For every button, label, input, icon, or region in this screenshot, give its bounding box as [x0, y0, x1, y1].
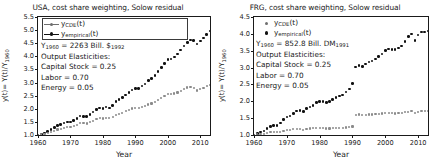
data-point — [154, 101, 156, 103]
data-point — [180, 90, 182, 92]
data-point — [92, 120, 94, 122]
x-axis-label-frg: Year — [253, 150, 429, 159]
data-point — [183, 45, 186, 48]
data-point — [154, 74, 157, 77]
data-point — [423, 31, 426, 34]
data-point — [424, 110, 426, 112]
data-point — [266, 132, 268, 134]
data-point — [299, 109, 302, 112]
data-point — [138, 107, 140, 109]
data-point — [354, 66, 357, 69]
data-point — [105, 117, 107, 119]
data-point — [170, 93, 172, 95]
annotation-base-year-frg: Y1960 = 852.8 Bill. DM1991 — [256, 39, 349, 50]
data-point — [282, 130, 284, 132]
data-point — [192, 39, 195, 42]
data-point — [79, 122, 81, 124]
y-axis-tick-mark — [251, 51, 254, 52]
chart-title-frg: FRG, cost share weighting, Solow residua… — [217, 3, 433, 12]
data-point — [202, 87, 204, 89]
x-axis-tick-mark — [135, 135, 136, 138]
y-axis-tick-label: 4.0 — [225, 30, 250, 38]
data-point — [111, 104, 114, 107]
data-point — [179, 49, 182, 52]
annotation-labor-usa: Labor = 0.70 — [41, 73, 124, 84]
data-point — [134, 87, 137, 90]
data-point — [115, 100, 118, 103]
data-point — [289, 115, 292, 118]
data-point — [427, 110, 429, 112]
data-point — [176, 53, 179, 56]
data-point — [322, 100, 325, 103]
data-point — [69, 126, 71, 128]
legend-marker-cde-icon — [44, 21, 59, 28]
data-point — [53, 126, 56, 129]
data-point — [361, 65, 364, 68]
y-axis-tick-label: 1.0 — [225, 131, 250, 139]
data-point — [384, 112, 386, 114]
data-point — [150, 102, 152, 104]
data-point — [279, 131, 281, 133]
data-point — [315, 101, 318, 104]
x-axis-label-usa: Year — [37, 150, 211, 159]
data-point — [341, 94, 344, 97]
data-point — [338, 95, 341, 98]
plot-area-frg: yCDE(t) yempirical(t) Y1960 = 852.8 Bill… — [253, 16, 429, 136]
data-point — [335, 127, 337, 129]
y-axis-tick-mark — [35, 96, 38, 97]
data-point — [302, 110, 305, 113]
data-point — [99, 117, 101, 119]
x-axis-tick-mark — [287, 135, 288, 138]
data-point — [325, 101, 328, 104]
data-point — [345, 126, 347, 128]
data-point — [384, 49, 387, 52]
panel-usa: USA, cost share weighting, Solow residua… — [0, 0, 216, 167]
y-axis-tick-label: 3.0 — [9, 79, 34, 87]
data-point — [318, 100, 321, 103]
y-axis-tick-label: 2.0 — [9, 105, 34, 113]
y-axis-tick-label: 3.0 — [225, 64, 250, 72]
data-point — [173, 92, 175, 94]
data-point — [186, 86, 188, 88]
data-point — [292, 112, 295, 115]
data-point — [371, 113, 373, 115]
x-axis-tick-mark — [103, 135, 104, 138]
data-point — [92, 111, 95, 114]
annotation-labor-frg: Labor = 0.70 — [256, 71, 349, 82]
data-point — [189, 39, 192, 42]
y-axis-tick-mark — [35, 83, 38, 84]
data-point — [410, 33, 413, 36]
x-axis-tick-label: 1990 — [344, 139, 361, 147]
annotation-capital-frg: Capital Stock = 0.25 — [256, 60, 349, 71]
data-point — [196, 89, 198, 91]
data-point — [342, 127, 344, 129]
data-point — [296, 128, 298, 130]
data-point — [137, 87, 140, 90]
data-point — [388, 112, 390, 114]
x-axis-tick-label: 1980 — [311, 139, 328, 147]
legend-marker-empirical-icon — [262, 30, 272, 37]
data-point — [351, 82, 354, 85]
data-point — [325, 127, 327, 129]
data-point — [361, 114, 363, 116]
data-point — [157, 70, 160, 73]
legend-frg: yCDE(t) yempirical(t) — [262, 19, 311, 38]
data-point — [335, 96, 338, 99]
data-point — [95, 108, 98, 111]
annotation-elasticities-header-usa: Output Elasticities: — [41, 52, 124, 63]
annotation-block-frg: Y1960 = 852.8 Bill. DM1991 Output Elasti… — [256, 39, 349, 92]
data-point — [309, 127, 311, 129]
data-point — [53, 130, 55, 132]
data-point — [82, 115, 85, 118]
x-axis-tick-label: 1960 — [246, 139, 263, 147]
x-axis-tick-mark — [70, 135, 71, 138]
y-axis-tick-label: 4.0 — [9, 52, 34, 60]
data-point — [387, 48, 390, 51]
data-point — [89, 121, 91, 123]
data-point — [407, 111, 409, 113]
data-point — [269, 131, 271, 133]
data-point — [404, 111, 406, 113]
y-axis-tick-label: 2.5 — [225, 80, 250, 88]
data-point — [404, 40, 407, 43]
data-point — [282, 118, 285, 121]
